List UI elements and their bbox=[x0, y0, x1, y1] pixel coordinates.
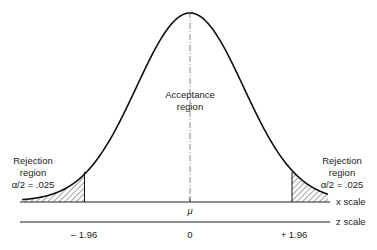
right-rejection-label-1: Rejection bbox=[322, 155, 362, 166]
z-tick-left: – 1.96 bbox=[71, 229, 97, 240]
bell-curve bbox=[22, 13, 328, 200]
normal-curve-diagram: Acceptance region Rejection region α/2 =… bbox=[0, 0, 377, 250]
left-rejection-alpha: α/2 = .025 bbox=[12, 179, 55, 190]
left-rejection-label-1: Rejection bbox=[13, 155, 53, 166]
right-rejection-alpha: α/2 = .025 bbox=[321, 179, 364, 190]
left-rejection-area bbox=[22, 13, 328, 202]
right-rejection-area bbox=[22, 13, 328, 202]
z-scale-label: z scale bbox=[336, 216, 366, 227]
left-rejection-label-2: region bbox=[20, 167, 46, 178]
acceptance-label-1: Acceptance bbox=[165, 89, 215, 100]
mean-label: μ bbox=[186, 205, 193, 216]
z-tick-center: 0 bbox=[187, 229, 192, 240]
right-rejection-label-2: region bbox=[329, 167, 355, 178]
z-tick-right: + 1.96 bbox=[281, 229, 308, 240]
acceptance-label-2: region bbox=[177, 101, 203, 112]
x-scale-label: x scale bbox=[336, 196, 366, 207]
diagram-canvas: Acceptance region Rejection region α/2 =… bbox=[0, 0, 377, 250]
